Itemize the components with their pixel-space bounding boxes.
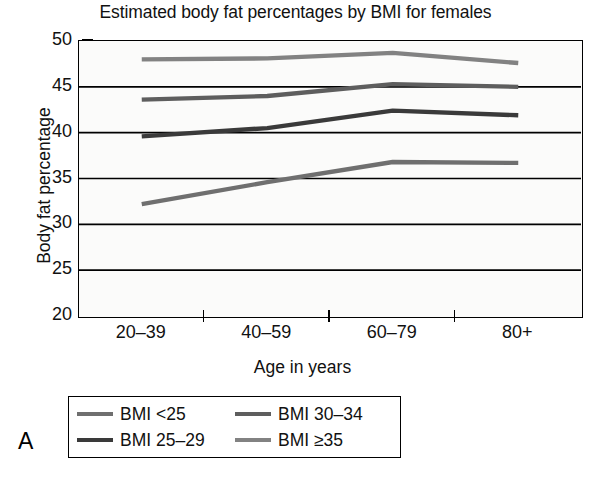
x-tick-mark xyxy=(454,310,456,322)
y-tick-label: 30 xyxy=(28,213,72,231)
figure-panel-a: Estimated body fat percentages by BMI fo… xyxy=(0,0,591,483)
y-tick-label: 20 xyxy=(28,305,72,323)
series-line xyxy=(142,53,519,63)
series-line xyxy=(142,162,519,204)
legend-swatch-icon xyxy=(235,412,271,417)
x-axis-label: Age in years xyxy=(75,357,530,378)
series-lines xyxy=(142,53,519,204)
y-tick-label: 50 xyxy=(28,30,72,48)
y-tick-label: 25 xyxy=(28,259,72,277)
x-tick-label: 60‒79 xyxy=(329,322,455,343)
legend-label: BMI 25‒29 xyxy=(120,430,205,451)
legend-label: BMI ≥35 xyxy=(278,430,343,451)
chart-title: Estimated body fat percentages by BMI fo… xyxy=(0,2,591,23)
y-tick-label: 45 xyxy=(28,76,72,94)
x-tick-label: 80+ xyxy=(454,322,580,343)
legend-swatch-icon xyxy=(77,438,113,443)
x-tick-mark xyxy=(328,310,330,322)
x-tick-label: 20‒39 xyxy=(78,322,204,343)
legend-swatch-icon xyxy=(235,438,271,443)
legend-label: BMI <25 xyxy=(120,404,186,425)
x-tick-mark xyxy=(203,310,205,322)
legend-item: BMI 30‒34 xyxy=(235,401,394,427)
legend-label: BMI 30‒34 xyxy=(278,404,363,425)
legend-item: BMI ≥35 xyxy=(235,427,394,453)
legend-swatch-icon xyxy=(77,412,113,417)
x-axis-ticks: 20‒3940‒5960‒7980+ xyxy=(78,322,583,356)
legend: BMI <25BMI 30‒34BMI 25‒29BMI ≥35 xyxy=(68,396,401,458)
y-axis-ticks: 20253035404550 xyxy=(14,0,72,483)
x-tick-label: 40‒59 xyxy=(203,322,329,343)
panel-letter: A xyxy=(18,428,33,455)
plot-area xyxy=(78,40,583,318)
y-tick-label: 40 xyxy=(28,122,72,140)
legend-grid: BMI <25BMI 30‒34BMI 25‒29BMI ≥35 xyxy=(77,401,394,453)
y-tick-label: 35 xyxy=(28,168,72,186)
legend-item: BMI 25‒29 xyxy=(77,427,235,453)
legend-item: BMI <25 xyxy=(77,401,235,427)
plot-svg xyxy=(79,41,581,316)
